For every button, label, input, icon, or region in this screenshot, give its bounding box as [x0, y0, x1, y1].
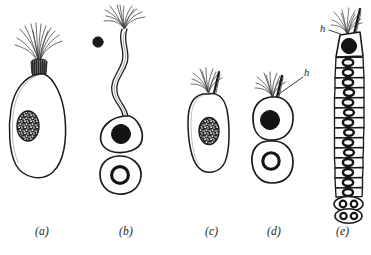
basal-cells-e	[334, 197, 363, 224]
panel-label-e: (e)	[336, 226, 349, 238]
figure-root: h h (a) (b) (c) (d) (e)	[0, 0, 371, 255]
granule-b	[93, 37, 103, 47]
panel-label-d: (d)	[267, 226, 281, 238]
nucleus-d-upper	[261, 111, 280, 130]
panel-label-a: (a)	[35, 226, 49, 238]
figure-illustration: h h	[0, 0, 371, 255]
annotation-h-panel-e: h	[320, 23, 325, 34]
nucleus-c	[199, 118, 219, 145]
panel-label-b: (b)	[119, 226, 133, 238]
nucleus-d-lower	[263, 153, 279, 169]
panel-label-c: (c)	[205, 226, 218, 238]
annotation-h-panel-d: h	[304, 67, 309, 78]
panel-d-drawing	[252, 72, 303, 183]
panel-a-drawing	[9, 23, 65, 178]
nucleus-b-lower	[112, 167, 129, 184]
panel-e-drawing	[329, 8, 364, 223]
flagella-tuft-b	[104, 5, 145, 28]
nucleus-head-e	[341, 38, 356, 53]
nucleus-a	[17, 111, 39, 141]
flagella-tuft-a	[15, 23, 62, 62]
nucleus-b-upper	[112, 125, 131, 144]
stalk-b-left	[112, 29, 123, 118]
panel-b-drawing	[93, 5, 145, 194]
panel-c-drawing	[188, 68, 229, 172]
